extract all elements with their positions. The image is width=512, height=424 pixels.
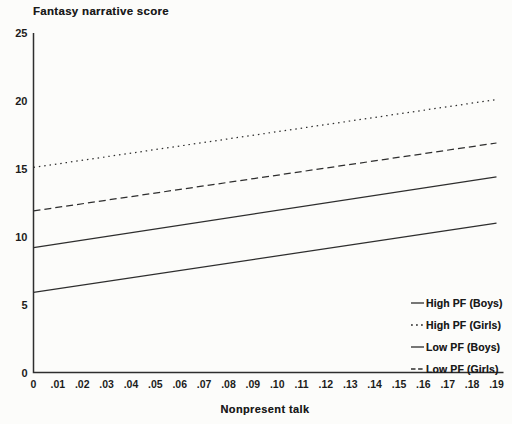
legend: High PF (Boys)High PF (Girls)Low PF (Boy… xyxy=(411,292,503,380)
x-tick-label: .07 xyxy=(197,378,212,390)
series-line-dashed xyxy=(34,143,497,211)
x-tick-label: .06 xyxy=(172,378,187,390)
fantasy-narrative-score-chart: Fantasy narrative score 05101520250.01.0… xyxy=(0,0,512,424)
x-axis-label: Nonpresent talk xyxy=(33,403,497,415)
series-line-solid xyxy=(34,177,497,248)
x-tick-label: .13 xyxy=(343,378,358,390)
x-tick-label: 0 xyxy=(31,378,37,390)
x-tick-label: .01 xyxy=(51,378,66,390)
x-tick-label: .09 xyxy=(246,378,261,390)
series-line-dotted xyxy=(34,100,497,168)
x-tick-label: .03 xyxy=(99,378,114,390)
x-tick-label: .05 xyxy=(148,378,163,390)
y-tick-label: 20 xyxy=(15,95,27,107)
y-tick-label: 10 xyxy=(15,231,27,243)
y-tick-label: 5 xyxy=(21,299,27,311)
y-tick-label: 15 xyxy=(15,163,27,175)
legend-item: Low PF (Boys) xyxy=(411,336,503,358)
x-tick-label: .08 xyxy=(221,378,236,390)
x-tick-label: .12 xyxy=(319,378,334,390)
legend-solid-line-icon xyxy=(411,343,424,351)
legend-label: Low PF (Boys) xyxy=(426,341,500,353)
y-tick-label: 0 xyxy=(21,367,27,379)
legend-item: High PF (Boys) xyxy=(411,292,503,314)
x-tick-label: .14 xyxy=(367,378,382,390)
x-tick-label: .15 xyxy=(392,378,407,390)
legend-label: High PF (Boys) xyxy=(426,297,503,309)
y-tick-label: 25 xyxy=(15,27,27,39)
x-tick-label: .10 xyxy=(270,378,285,390)
legend-solid-line-icon xyxy=(411,299,424,307)
legend-dashed-line-icon xyxy=(411,365,424,373)
legend-label: High PF (Girls) xyxy=(426,319,501,331)
legend-label: Low PF (Girls) xyxy=(426,363,499,375)
legend-dotted-line-icon xyxy=(411,321,424,329)
x-tick-label: .11 xyxy=(295,378,309,390)
series-line-solid xyxy=(34,223,497,292)
x-tick-label: .02 xyxy=(75,378,90,390)
x-tick-label: .04 xyxy=(124,378,139,390)
legend-item: High PF (Girls) xyxy=(411,314,503,336)
legend-item: Low PF (Girls) xyxy=(411,358,503,380)
